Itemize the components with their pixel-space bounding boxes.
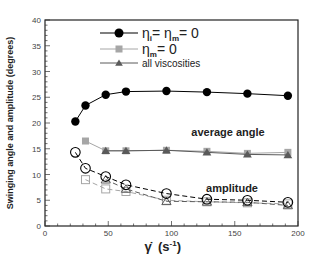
x-tick-label: 100 xyxy=(165,229,179,238)
data-point xyxy=(162,87,170,95)
x-axis-label: γ̇ (s-1) xyxy=(144,239,181,254)
x-tick-label: 200 xyxy=(291,229,305,238)
series-layer xyxy=(71,87,293,209)
data-point xyxy=(122,87,130,95)
series-0 xyxy=(71,87,292,126)
y-tick-label: 40 xyxy=(32,16,41,25)
y-tick-label: 35 xyxy=(32,42,41,51)
data-point xyxy=(82,138,89,145)
x-tick-label: 50 xyxy=(104,229,113,238)
annotation-amplitude: amplitude xyxy=(206,182,258,194)
y-axis-label: Swinging angle and amplitude (degrees) xyxy=(5,37,15,210)
y-tick-label: 20 xyxy=(32,119,41,128)
y-tick-label: 0 xyxy=(37,222,42,231)
x-axis-label-symbol: γ̇ xyxy=(144,239,152,254)
series-4 xyxy=(81,176,291,208)
x-tick-label: 150 xyxy=(228,229,242,238)
legend-label: ηm= 0 xyxy=(142,41,177,59)
series-5 xyxy=(101,175,292,208)
legend: ηi= ηm= 0ηm= 0all viscosities xyxy=(100,25,200,69)
x-axis-label-unit: (s-1) xyxy=(158,239,181,254)
series-2 xyxy=(101,146,292,158)
legend-item-1: ηm= 0 xyxy=(100,41,177,59)
x-tick-label: 0 xyxy=(43,229,48,238)
chart: 0510152025303540050100150200 ηi= ηm= 0ηm… xyxy=(0,0,321,262)
legend-item-2: all viscosities xyxy=(100,58,200,69)
series-1 xyxy=(82,138,291,157)
legend-marker xyxy=(115,29,124,38)
legend-label: all viscosities xyxy=(142,58,200,69)
y-tick-label: 25 xyxy=(32,93,41,102)
series-3 xyxy=(71,148,293,208)
annotation-average-angle: average angle xyxy=(191,126,264,138)
y-tick-label: 30 xyxy=(32,68,41,77)
data-point xyxy=(243,89,251,97)
data-point xyxy=(102,90,110,98)
y-tick-label: 15 xyxy=(32,145,41,154)
data-point xyxy=(203,88,211,96)
y-tick-label: 10 xyxy=(32,171,41,180)
data-point xyxy=(81,101,89,109)
y-tick-label: 5 xyxy=(37,196,42,205)
data-point xyxy=(284,92,292,100)
legend-marker xyxy=(116,46,123,53)
data-point xyxy=(71,117,79,125)
